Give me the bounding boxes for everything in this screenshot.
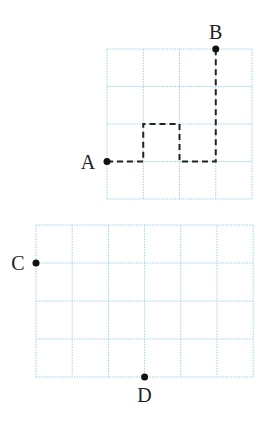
point-d-dot	[141, 374, 148, 381]
top-grid: AB	[81, 21, 252, 199]
point-b-dot	[212, 46, 219, 53]
point-d-label: D	[137, 384, 151, 406]
point-a-label: A	[81, 151, 96, 173]
point-b-label: B	[209, 21, 222, 43]
dashed-path	[107, 49, 216, 162]
point-c-dot	[33, 260, 40, 267]
point-c-label: C	[11, 252, 24, 274]
point-a-dot	[104, 158, 111, 165]
bottom-grid: CD	[11, 225, 253, 406]
grid-diagram: AB CD	[0, 0, 268, 430]
